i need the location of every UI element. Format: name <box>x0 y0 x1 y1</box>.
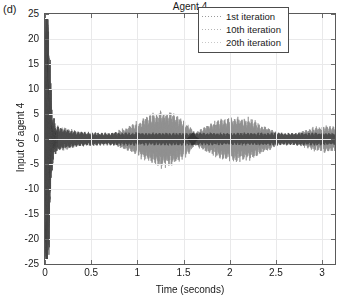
figure-agent-4: (d) Agent 4 2520151050-5-10-15-20-25 00.… <box>0 0 342 301</box>
legend-item: 1st iteration <box>202 10 285 23</box>
y-axis-tick <box>45 114 49 115</box>
chart-title: Agent 4 <box>44 1 336 12</box>
y-axis-tick <box>331 189 335 190</box>
gridline-horizontal <box>45 89 335 90</box>
y-axis-tick <box>331 14 335 15</box>
y-axis-tick <box>331 239 335 240</box>
gridline-horizontal <box>45 189 335 190</box>
y-axis-tick <box>45 189 49 190</box>
plot-area <box>44 13 336 265</box>
y-axis-tick <box>45 164 49 165</box>
y-axis-tick <box>331 39 335 40</box>
x-axis-tick <box>91 14 92 18</box>
x-axis-tick <box>91 260 92 264</box>
gridline-horizontal <box>45 39 335 40</box>
gridline-vertical <box>137 14 138 264</box>
y-axis-tick <box>331 264 335 265</box>
y-axis-tick <box>45 214 49 215</box>
x-axis-tick <box>276 260 277 264</box>
y-axis-tick <box>45 64 49 65</box>
x-axis-tick-label: 2 <box>210 268 250 278</box>
x-axis-tick <box>45 260 46 264</box>
x-axis-tick <box>230 260 231 264</box>
gridline-horizontal <box>45 164 335 165</box>
x-axis-tick-label: 2.5 <box>256 268 296 278</box>
gridline-horizontal <box>45 139 335 140</box>
gridline-horizontal <box>45 239 335 240</box>
x-axis-tick <box>184 14 185 18</box>
x-axis-tick <box>322 260 323 264</box>
x-axis-tick <box>137 260 138 264</box>
x-axis-tick <box>137 14 138 18</box>
gridline-vertical <box>91 14 92 264</box>
legend-line-sample-10th-iteration <box>202 25 222 34</box>
y-axis-title: Input of agent 4 <box>15 63 26 213</box>
legend-label-1st-iteration: 1st iteration <box>226 12 275 22</box>
y-axis-tick-label: 25 <box>6 9 39 19</box>
x-axis-tick <box>184 260 185 264</box>
y-axis-tick <box>331 139 335 140</box>
legend[interactable]: 1st iteration 10th iteration 20th iterat… <box>198 7 289 53</box>
y-axis-tick <box>45 39 49 40</box>
legend-item: 20th iteration <box>202 36 285 49</box>
gridline-horizontal <box>45 64 335 65</box>
gridline-vertical <box>184 14 185 264</box>
y-axis-tick <box>331 89 335 90</box>
x-axis-title: Time (seconds) <box>44 284 336 295</box>
x-axis-tick-label: 0.5 <box>71 268 111 278</box>
x-axis-tick-label: 3 <box>302 268 342 278</box>
y-axis-tick <box>331 214 335 215</box>
y-axis-tick <box>331 164 335 165</box>
legend-label-10th-iteration: 10th iteration <box>226 25 281 35</box>
y-axis-tick <box>45 139 49 140</box>
y-axis-tick <box>45 264 49 265</box>
legend-label-20th-iteration: 20th iteration <box>226 38 281 48</box>
y-axis-tick <box>331 114 335 115</box>
y-axis-tick-label: 20 <box>6 34 39 44</box>
x-axis-tick-label: 0 <box>25 268 65 278</box>
y-axis-tick-label: -20 <box>6 234 39 244</box>
gridline-horizontal <box>45 114 335 115</box>
legend-line-sample-20th-iteration <box>202 38 222 47</box>
y-axis-tick <box>331 64 335 65</box>
x-axis-tick <box>45 14 46 18</box>
legend-line-sample-1st-iteration <box>202 12 222 21</box>
x-axis-tick-label: 1.5 <box>164 268 204 278</box>
x-axis-tick-label: 1 <box>117 268 157 278</box>
gridline-horizontal <box>45 214 335 215</box>
x-axis-tick <box>322 14 323 18</box>
legend-item: 10th iteration <box>202 23 285 36</box>
y-axis-tick <box>45 239 49 240</box>
y-axis-tick <box>45 89 49 90</box>
gridline-vertical <box>322 14 323 264</box>
